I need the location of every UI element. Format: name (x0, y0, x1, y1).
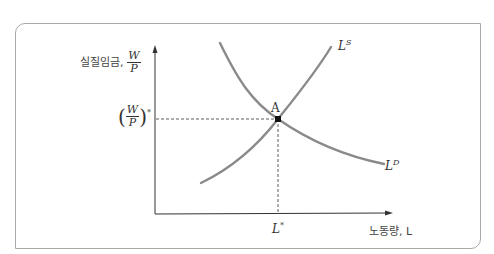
frac-den: P (130, 63, 137, 75)
supply-base: L (338, 39, 346, 53)
y-axis-arrow-icon (153, 45, 158, 53)
supply-label: LS (338, 38, 351, 53)
y-axis-label: 실질임금, WP (80, 50, 141, 75)
demand-sup: D (393, 158, 399, 167)
x-axis-arrow-icon (385, 211, 393, 216)
point-a-label: A (271, 101, 280, 115)
eq-wage-label: (WP)* (118, 104, 151, 129)
supply-sup: S (346, 38, 351, 47)
eq-labor-label: L* (272, 221, 284, 236)
demand-base: L (385, 159, 393, 173)
y-axis-fraction: WP (127, 50, 140, 75)
star: * (147, 108, 151, 117)
frac-den: P (129, 117, 136, 129)
x-axis-label: 노동량, L (369, 222, 412, 238)
labor-demand-curve (220, 43, 384, 164)
demand-label: LD (385, 158, 399, 173)
star: * (280, 221, 284, 230)
equilibrium-point (275, 116, 281, 122)
y-axis-label-text: 실질임금, (80, 56, 124, 69)
eq-wage-fraction: WP (126, 104, 139, 129)
chart-plot (0, 0, 494, 254)
x-axis (155, 213, 387, 214)
eq-labor-base: L (272, 222, 280, 236)
labor-supply-curve (201, 47, 331, 183)
